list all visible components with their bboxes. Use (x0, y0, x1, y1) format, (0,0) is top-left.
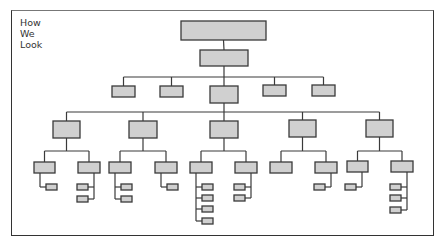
org-box-l5b1 (109, 162, 131, 173)
org-box-l3b (160, 86, 183, 97)
leaf-box (390, 207, 401, 213)
leaf-box (121, 196, 132, 202)
org-box-l3e (312, 85, 335, 96)
leaf-box (234, 184, 245, 190)
org-box-l4a (53, 121, 80, 138)
leaf-box (202, 195, 213, 201)
org-box-root (181, 21, 266, 40)
org-chart (0, 0, 443, 245)
org-box-l5d1 (270, 162, 292, 173)
leaf-box (202, 184, 213, 190)
org-box-l5c1 (190, 162, 212, 173)
leaf-box (202, 218, 213, 224)
leaf-box (345, 184, 356, 190)
leaf-box (167, 184, 178, 190)
leaf-box (202, 206, 213, 212)
leaf-box (390, 184, 401, 190)
org-box-l3c (210, 86, 238, 103)
org-box-l4c (210, 121, 238, 138)
org-box-l5e1 (347, 161, 368, 172)
org-box-l4d (289, 120, 316, 137)
leaf-box (77, 184, 88, 190)
org-box-l4e (366, 120, 393, 137)
leaf-box (77, 196, 88, 202)
org-box-l3a (112, 86, 135, 97)
org-box-l5d2 (315, 162, 337, 173)
connector-line (224, 40, 225, 50)
org-box-l2 (200, 50, 248, 66)
leaf-box (390, 195, 401, 201)
org-box-l5a2 (78, 162, 100, 173)
org-box-l5c2 (235, 162, 257, 173)
org-box-l5b2 (155, 162, 177, 173)
org-box-l5a1 (34, 162, 55, 173)
leaf-box (46, 184, 57, 190)
org-box-l3d (263, 85, 286, 96)
org-box-l4b (129, 121, 157, 138)
leaf-box (314, 184, 325, 190)
leaf-box (234, 195, 245, 201)
org-boxes (34, 21, 413, 224)
leaf-box (121, 184, 132, 190)
org-box-l5e2 (391, 161, 413, 172)
